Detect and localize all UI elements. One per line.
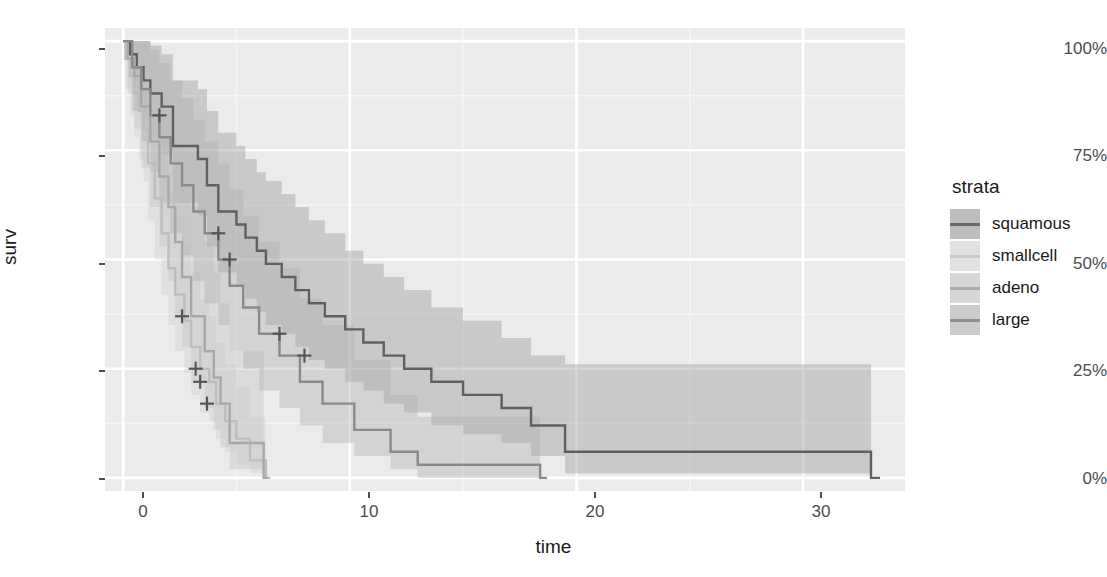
legend-item-smallcell[interactable]: smallcell xyxy=(950,240,1100,272)
legend-key-line xyxy=(950,255,980,258)
legend-key-large xyxy=(950,305,980,335)
x-tick-label-30: 30 xyxy=(812,502,831,522)
kaplan-meier-plot: 100% 75% 50% 25% 0% surv 0 10 20 30 time… xyxy=(0,0,1107,577)
plot-panel xyxy=(105,28,905,491)
x-tickmark-10 xyxy=(368,492,370,498)
legend-items: squamoussmallcelladenolarge xyxy=(950,208,1100,336)
y-tick-label-25: 25% xyxy=(1073,361,1107,381)
legend-item-label: large xyxy=(992,310,1030,330)
legend-item-adeno[interactable]: adeno xyxy=(950,272,1100,304)
y-tickmark-0 xyxy=(99,478,105,480)
legend-key-squamous xyxy=(950,209,980,239)
y-tickmark-50 xyxy=(99,263,105,265)
legend: strata squamoussmallcelladenolarge xyxy=(950,176,1100,336)
y-tickmark-25 xyxy=(99,370,105,372)
legend-key-line xyxy=(950,287,980,290)
plot-canvas xyxy=(105,28,905,491)
x-tickmark-30 xyxy=(820,492,822,498)
y-tick-label-100: 100% xyxy=(1064,39,1107,59)
legend-key-smallcell xyxy=(950,241,980,271)
y-tick-label-75: 75% xyxy=(1073,146,1107,166)
legend-title: strata xyxy=(952,176,1100,198)
legend-item-label: smallcell xyxy=(992,246,1057,266)
y-tickmark-100 xyxy=(99,48,105,50)
legend-item-large[interactable]: large xyxy=(950,304,1100,336)
x-axis-title: time xyxy=(0,536,1107,558)
y-tickmark-75 xyxy=(99,155,105,157)
legend-key-line xyxy=(950,319,980,322)
y-axis-title: surv xyxy=(0,229,21,265)
legend-item-label: squamous xyxy=(992,214,1070,234)
legend-item-squamous[interactable]: squamous xyxy=(950,208,1100,240)
x-tick-label-0: 0 xyxy=(138,502,147,522)
x-tickmark-0 xyxy=(142,492,144,498)
x-tickmark-20 xyxy=(594,492,596,498)
y-tick-label-0: 0% xyxy=(1082,469,1107,489)
legend-key-adeno xyxy=(950,273,980,303)
legend-item-label: adeno xyxy=(992,278,1039,298)
x-tick-label-20: 20 xyxy=(586,502,605,522)
x-tick-label-10: 10 xyxy=(360,502,379,522)
legend-key-line xyxy=(950,223,980,226)
